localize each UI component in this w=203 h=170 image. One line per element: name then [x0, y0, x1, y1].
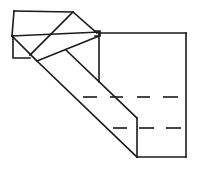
solid-lines — [12, 11, 186, 157]
small-flap-top — [14, 11, 73, 12]
small-flap-left — [12, 11, 14, 36]
cross-line — [12, 32, 99, 36]
origami-diagram — [0, 0, 203, 170]
flap-diagonal-right — [73, 12, 97, 33]
strip-outer-diagonal — [37, 61, 137, 157]
strip-inner-diagonal — [66, 50, 137, 118]
